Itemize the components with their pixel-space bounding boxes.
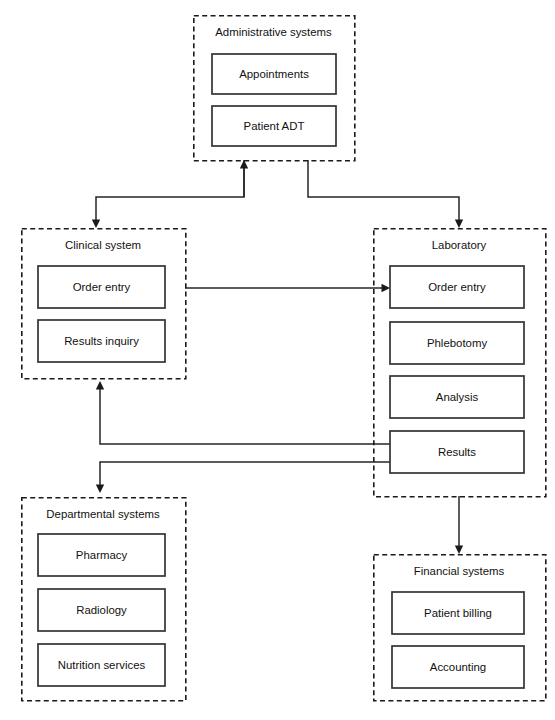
node-results-inquiry[interactable]: Results inquiry — [38, 320, 165, 362]
arrow-head-lab-results-to-clinical-system — [96, 381, 104, 390]
node-label-phlebotomy: Phlebotomy — [427, 337, 487, 349]
node-analysis[interactable]: Analysis — [390, 376, 524, 418]
diagram-canvas: Administrative systemsAppointmentsPatien… — [0, 0, 555, 720]
group-departmental-systems[interactable]: Departmental systemsPharmacyRadiologyNut… — [22, 498, 186, 701]
arrow-head-clinical-order-entry-to-lab-order-entry — [382, 284, 391, 292]
node-label-accounting: Accounting — [430, 661, 486, 673]
connector-clinical-to-admin — [240, 160, 248, 197]
group-title-laboratory: Laboratory — [432, 239, 487, 251]
node-nutrition-services[interactable]: Nutrition services — [38, 644, 165, 686]
connector-line-admin-to-clinical — [96, 160, 244, 221]
connector-line-admin-to-laboratory — [308, 160, 459, 221]
node-pharmacy[interactable]: Pharmacy — [38, 534, 165, 576]
node-label-lab-order-entry: Order entry — [428, 281, 486, 293]
node-clinical-order-entry[interactable]: Order entry — [38, 266, 165, 308]
node-label-patient-adt: Patient ADT — [244, 120, 305, 132]
node-appointments[interactable]: Appointments — [212, 54, 336, 94]
node-results[interactable]: Results — [390, 431, 524, 473]
arrow-head-lab-results-to-departmental-systems — [96, 485, 104, 494]
node-patient-adt[interactable]: Patient ADT — [212, 106, 336, 146]
node-label-results-inquiry: Results inquiry — [64, 335, 139, 347]
node-label-appointments: Appointments — [239, 68, 309, 80]
node-label-radiology: Radiology — [76, 604, 127, 616]
connector-admin-to-clinical — [92, 160, 244, 228]
node-label-patient-billing: Patient billing — [424, 607, 492, 619]
node-phlebotomy[interactable]: Phlebotomy — [390, 322, 524, 364]
group-financial-systems[interactable]: Financial systemsPatient billingAccounti… — [374, 555, 546, 701]
node-lab-order-entry[interactable]: Order entry — [390, 266, 524, 308]
connector-line-lab-results-to-clinical-system — [100, 389, 390, 444]
node-label-pharmacy: Pharmacy — [76, 549, 128, 561]
node-accounting[interactable]: Accounting — [392, 646, 524, 688]
group-title-clinical-system: Clinical system — [65, 239, 141, 251]
group-title-administrative-systems: Administrative systems — [215, 26, 332, 38]
group-title-financial-systems: Financial systems — [414, 565, 505, 577]
node-label-analysis: Analysis — [436, 391, 479, 403]
group-title-departmental-systems: Departmental systems — [46, 508, 160, 520]
node-label-nutrition-services: Nutrition services — [58, 659, 146, 671]
node-radiology[interactable]: Radiology — [38, 589, 165, 631]
connector-lab-results-to-clinical-system — [96, 381, 390, 444]
node-patient-billing[interactable]: Patient billing — [392, 592, 524, 634]
system-interface-diagram: Administrative systemsAppointmentsPatien… — [0, 0, 555, 720]
group-administrative-systems[interactable]: Administrative systemsAppointmentsPatien… — [194, 16, 355, 161]
arrow-head-laboratory-to-financial-systems — [455, 546, 463, 555]
group-clinical-system[interactable]: Clinical systemOrder entryResults inquir… — [22, 229, 186, 379]
arrow-head-admin-to-laboratory — [455, 220, 463, 229]
connector-admin-to-laboratory — [308, 160, 463, 228]
node-label-clinical-order-entry: Order entry — [73, 281, 131, 293]
connector-line-lab-results-to-departmental-systems — [100, 462, 390, 485]
group-laboratory[interactable]: LaboratoryOrder entryPhlebotomyAnalysisR… — [374, 229, 546, 497]
connector-clinical-order-entry-to-lab-order-entry — [185, 284, 390, 292]
arrow-head-admin-to-clinical — [92, 220, 100, 229]
connector-lab-results-to-departmental-systems — [96, 462, 390, 493]
group-layer: Administrative systemsAppointmentsPatien… — [22, 16, 546, 701]
node-label-results: Results — [438, 446, 476, 458]
connector-laboratory-to-financial-systems — [455, 496, 463, 554]
